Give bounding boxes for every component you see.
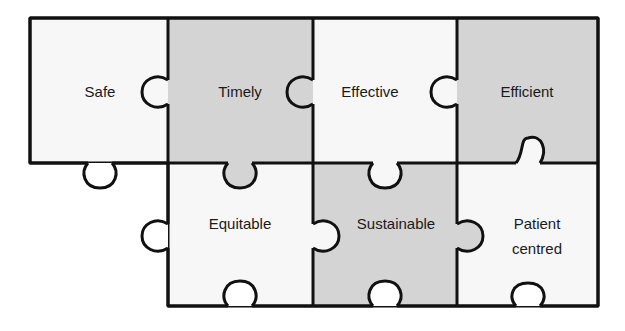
label-effective: Effective: [341, 82, 398, 102]
label-timely: Timely: [218, 82, 262, 102]
label-patient-centred-line1: Patient: [514, 214, 561, 234]
label-safe: Safe: [85, 82, 116, 102]
puzzle-diagram: [0, 0, 625, 331]
label-efficient: Efficient: [500, 82, 553, 102]
label-sustainable: Sustainable: [357, 214, 435, 234]
label-patient-centred-line2: centred: [512, 239, 562, 259]
label-equitable: Equitable: [209, 214, 272, 234]
